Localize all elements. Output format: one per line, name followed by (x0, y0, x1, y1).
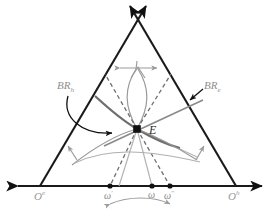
vertex-right-base: O (228, 190, 236, 202)
point-omega-prime (107, 183, 112, 188)
omega-double-prime-base: ω (164, 190, 171, 201)
br-h-label: BRh (57, 80, 74, 94)
lower-curve-sweep (75, 152, 200, 163)
vertex-right-label: Oh (228, 190, 240, 202)
point-omega-double-prime (167, 183, 172, 188)
figure-canvas: BRh BRe E Oe Oh ω′ ω ω″ (0, 0, 279, 215)
triangle-left-side (40, 6, 146, 186)
omega-double-prime-sup: ″ (171, 189, 174, 196)
vertex-right-sup: h (236, 189, 240, 197)
omega-label: ω (148, 190, 155, 200)
equilibrium-point-marker (133, 125, 141, 133)
shift-right-arrow-line (196, 146, 204, 160)
vertex-left-base: O (34, 190, 42, 202)
bottom-span-path (110, 198, 170, 204)
shift-left-arrow-line (68, 146, 77, 160)
omega-prime-label: ω′ (104, 190, 112, 201)
br-e-label-base: BR (204, 79, 217, 91)
top-spread-arrow-icon (120, 67, 157, 78)
shift-left-arrow-icon (68, 146, 77, 160)
equilibrium-label: E (149, 124, 156, 136)
omega-prime-base: ω (104, 190, 111, 201)
bottom-span-arrow-icon (110, 198, 170, 204)
diagram-svg (0, 0, 279, 215)
omega-prime-sup: ′ (111, 189, 112, 196)
triangle-right-side (130, 6, 236, 186)
point-omega (149, 183, 154, 188)
vertex-left-label: Oe (34, 190, 45, 202)
dashed-ray-up-right (137, 74, 171, 129)
lens-curve-pair (127, 61, 147, 129)
omega-base: ω (148, 189, 155, 200)
br-h-line (95, 96, 180, 148)
lower-gray-curves (72, 129, 200, 165)
shift-right-arrow-icon (196, 146, 204, 160)
br-h-segment (95, 96, 180, 148)
spread-arrow-vee (131, 67, 145, 78)
br-e-pointer-path (190, 89, 203, 100)
br-e-label: BRe (204, 80, 221, 94)
br-e-label-sub: e (217, 86, 220, 94)
br-h-label-base: BR (57, 79, 70, 91)
br-e-pointer-arrow-icon (190, 89, 203, 100)
vertex-left-sup: e (42, 189, 45, 197)
triangle-sides (40, 6, 236, 186)
br-h-label-sub: h (70, 86, 74, 94)
dashed-ray-up-left (105, 74, 137, 129)
omega-double-prime-label: ω″ (164, 190, 174, 201)
gray-ray-to-omega (137, 129, 152, 186)
